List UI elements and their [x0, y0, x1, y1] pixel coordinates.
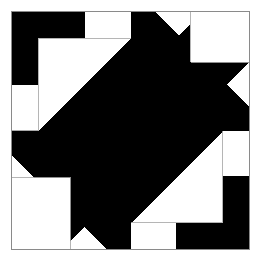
white-square-bottom-left-overlay	[11, 178, 70, 250]
white-square-top-right-overlay	[190, 11, 250, 62]
screenshot-canvas	[0, 0, 263, 262]
quilt-block-image	[0, 0, 263, 262]
